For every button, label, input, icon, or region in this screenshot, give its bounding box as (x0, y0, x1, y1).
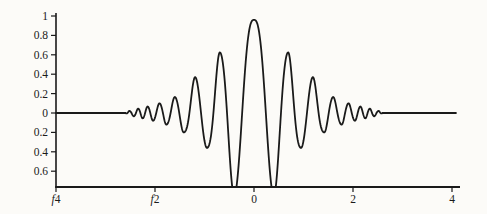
y-tick-label: 0.2 (34, 126, 49, 138)
y-tick-label: 0.4 (34, 146, 49, 158)
x-tick-label: f4 (52, 193, 61, 206)
x-tick-label: f2 (151, 193, 160, 206)
y-tick-label: 0.6 (34, 165, 49, 177)
figure-page: f4f202410.80.60.40.200.20.40.6 (0, 0, 487, 214)
y-tick-label: 0 (42, 107, 48, 119)
pulse-curve (56, 20, 456, 187)
x-tick-label: 2 (350, 193, 356, 205)
x-tick-label: 4 (449, 193, 455, 205)
y-tick-label: 0.4 (34, 68, 49, 80)
y-tick-label: 0.8 (34, 29, 49, 41)
x-tick-label: 0 (251, 193, 257, 205)
y-tick-label: 0.6 (34, 49, 49, 61)
y-tick-label: 1 (42, 10, 48, 22)
y-tick-label: 0.2 (34, 88, 49, 100)
function-plot: f4f202410.80.60.40.200.20.40.6 (0, 0, 487, 214)
